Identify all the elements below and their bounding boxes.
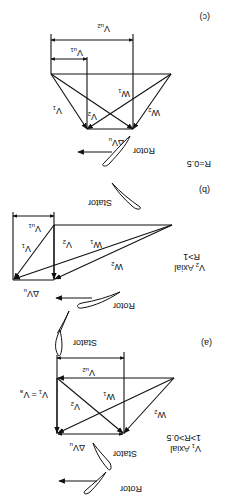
velocity-triangles-diagram: (c) Vu2 Vu1 V1 V2 W1 W2 ΔVu Rotor R=0.5 …	[0, 0, 229, 497]
svg-text:V2: V2	[87, 111, 97, 122]
svg-text:Vu1: Vu1	[28, 223, 41, 234]
svg-text:V2 Axial: V2 Axial	[174, 262, 205, 273]
condition-b-line1: V2 Axial	[174, 262, 205, 273]
vector-w1	[87, 74, 171, 129]
svg-text:W2: W2	[148, 107, 161, 118]
rotor-label-a: Rotor	[120, 484, 142, 494]
svg-text:V1 Axial: V1 Axial	[170, 443, 201, 454]
label-w2: W2	[148, 107, 161, 118]
vector-w2-a	[124, 378, 174, 433]
panel-a-label: (a)	[201, 338, 212, 348]
label-vu1-b: Vu1	[28, 223, 41, 234]
vector-w2	[133, 74, 171, 129]
svg-text:V1=Va: V1=Va	[19, 389, 48, 400]
svg-text:W2: W2	[111, 261, 124, 272]
stator-blade-icon-a-top	[56, 330, 62, 356]
svg-text:Vu2: Vu2	[97, 23, 110, 34]
svg-text:Vu2: Vu2	[82, 367, 95, 378]
label-w2-a: W2	[154, 409, 167, 420]
svg-text:W2: W2	[154, 409, 167, 420]
panel-c-label: (c)	[200, 12, 211, 22]
condition-c: R=0.5	[187, 159, 211, 169]
svg-text:ΔVu: ΔVu	[24, 288, 39, 299]
svg-text:W1: W1	[118, 88, 131, 99]
label-vu2-a: Vu2	[82, 367, 95, 378]
svg-text:ΔVu: ΔVu	[70, 442, 85, 453]
svg-text:V1: V1	[21, 243, 31, 254]
label-v1-va-a: V1=Va	[19, 389, 48, 400]
label-v2-a: V2	[70, 401, 80, 412]
svg-text:V1: V1	[52, 105, 62, 116]
rotor-blade-icon-a	[84, 472, 106, 494]
svg-text:W1: W1	[103, 391, 116, 402]
svg-text:W1: W1	[90, 239, 103, 250]
label-delta-vu-b: ΔVu	[24, 288, 39, 299]
label-w1-a: W1	[103, 391, 116, 402]
svg-text:V2: V2	[62, 239, 72, 250]
label-v1: V1	[52, 105, 62, 116]
stator-label: Stator	[88, 198, 112, 208]
label-w1-b: W1	[90, 239, 103, 250]
label-w2-b: W2	[111, 261, 124, 272]
vector-v1	[51, 74, 87, 129]
condition-a-line1: V1 Axial	[170, 443, 201, 454]
vector-v2-a	[57, 378, 123, 433]
svg-text:V2: V2	[70, 401, 80, 412]
stator-blade-icon-a	[93, 443, 111, 470]
panel-a: (a) Stator Vu2 V1=Va V2 W1 W2 ΔVu 1>R>0.…	[19, 330, 212, 494]
panel-b: (b) Stator Vu1 V1 V2 W1 W2 ΔVu R>1 V2 Ax…	[13, 183, 210, 334]
stator-label-a-top: Stator	[73, 338, 97, 348]
rotor-label-b: Rotor	[113, 301, 135, 311]
label-vu1: Vu1	[70, 47, 83, 58]
vector-w2-b	[55, 225, 172, 279]
label-v1-b: V1	[21, 243, 31, 254]
label-w1: W1	[118, 88, 131, 99]
label-vu2: Vu2	[97, 23, 110, 34]
label-delta-vu-a: ΔVu	[70, 442, 85, 453]
panel-c: (c) Vu2 Vu1 V1 V2 W1 W2 ΔVu Rotor R=0.5	[51, 12, 211, 169]
svg-text:Vu1: Vu1	[70, 47, 83, 58]
stator-blade-icon	[112, 183, 140, 209]
condition-a-line2: 1>R>0.5	[166, 433, 201, 443]
vector-v1-b	[14, 225, 54, 279]
label-v2: V2	[87, 111, 97, 122]
panel-b-label: (b)	[199, 185, 210, 195]
rotor-label: Rotor	[133, 146, 155, 156]
condition-b-line2: R>1	[183, 252, 200, 262]
stator-label-a: Stator	[113, 449, 137, 459]
label-v2-b: V2	[62, 239, 72, 250]
